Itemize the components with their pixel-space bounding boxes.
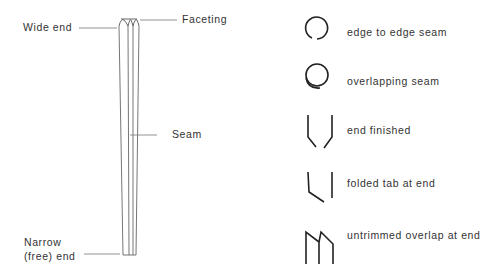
faceting-label: Faceting — [182, 13, 227, 25]
tube-outline — [119, 26, 139, 255]
faceting-marks — [119, 19, 139, 26]
untrimmed-overlap-icon — [300, 220, 340, 270]
narrow-end-label-line2: (free) end — [24, 250, 76, 262]
wide-end-label: Wide end — [23, 21, 72, 33]
seam-label: Seam — [172, 128, 202, 140]
legend-label-overlapping-seam: overlapping seam — [347, 75, 439, 87]
overlapping-seam-icon — [300, 58, 340, 98]
narrow-end-label-line1: Narrow — [24, 236, 61, 248]
legend-label-untrimmed-overlap: untrimmed overlap at end — [347, 229, 480, 241]
edge-to-edge-seam-icon — [300, 10, 340, 50]
legend-label-edge-to-edge-seam: edge to edge seam — [347, 26, 447, 38]
folded-tab-icon — [300, 166, 340, 216]
end-finished-icon — [300, 107, 340, 157]
legend-label-folded-tab: folded tab at end — [347, 177, 435, 189]
legend-label-end-finished: end finished — [347, 124, 411, 136]
